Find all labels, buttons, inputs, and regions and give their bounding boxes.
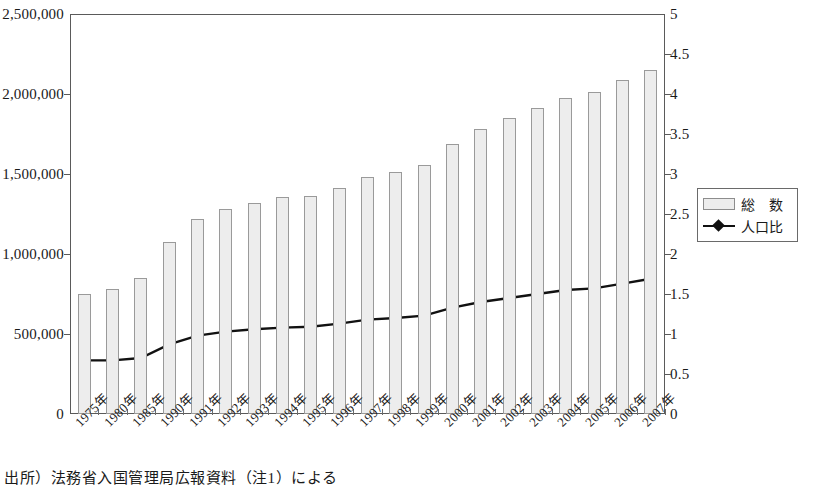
right-axis-tick-label: 1.5 [670,286,689,303]
bar [559,98,572,414]
right-axis-tick-label: 0.5 [670,366,689,383]
plot-area [70,14,665,414]
chart-page: 0500,0001,000,0001,500,0002,000,0002,500… [0,0,814,489]
right-axis-tick-mark [665,134,671,135]
right-axis-tick-mark [665,214,671,215]
left-axis-tick-mark [64,254,70,255]
chart-legend: 総 数 人口比 [697,188,798,242]
left-axis-tick-label: 1,500,000 [2,166,64,183]
bar [78,294,91,414]
bar [531,108,544,414]
bar [361,177,374,414]
right-axis-tick-mark [665,54,671,55]
right-axis-tick-label: 2.5 [670,206,689,223]
legend-item-total: 総 数 [703,193,792,215]
right-axis-tick-mark [665,294,671,295]
right-axis-tick-mark [665,254,671,255]
bar [588,92,601,414]
right-axis-tick-mark [665,174,671,175]
bar [191,219,204,414]
right-axis-tick-mark [665,94,671,95]
bar-swatch-icon [703,198,735,210]
bar [219,209,232,414]
legend-label-total: 総 数 [741,194,783,214]
bar [503,118,516,414]
bar [446,144,459,414]
left-axis-tick-label: 2,500,000 [2,6,64,23]
x-axis-labels: 1975年1980年1985年1990年1991年1992年1993年1994年… [70,414,665,470]
left-axis-labels: 0500,0001,000,0001,500,0002,000,0002,500… [0,0,64,489]
left-axis-tick-label: 1,000,000 [2,246,64,263]
right-axis-tick-mark [665,374,671,375]
left-axis-tick-label: 2,000,000 [2,86,64,103]
right-axis-tick-label: 3 [670,166,678,183]
line-diamond-swatch-icon [703,220,735,232]
left-axis-tick-label: 500,000 [14,326,64,343]
right-axis-tick-label: 4.5 [670,46,689,63]
left-axis-tick-label: 0 [56,406,64,423]
bar [163,242,176,414]
right-axis-tick-label: 1 [670,326,678,343]
bar [134,278,147,414]
bar [106,289,119,414]
right-axis-labels: 00.511.522.533.544.55 [670,0,710,489]
right-axis-tick-mark [665,334,671,335]
bar [418,165,431,414]
bar [616,80,629,414]
bar [389,172,402,414]
bar [474,129,487,414]
right-axis-tick-label: 3.5 [670,126,689,143]
left-axis-tick-mark [64,174,70,175]
right-axis-tick-label: 4 [670,86,678,103]
right-axis-tick-label: 2 [670,246,678,263]
legend-item-ratio: 人口比 [703,215,792,237]
bar [248,203,261,414]
bar [333,188,346,414]
left-axis-tick-mark [64,94,70,95]
bar [276,197,289,414]
legend-label-ratio: 人口比 [741,216,783,236]
source-caption: 出所）法務省入国管理局広報資料（注1）による [4,466,338,487]
left-axis-tick-mark [64,334,70,335]
right-axis-tick-label: 5 [670,6,678,23]
bar [644,70,657,414]
bar [304,196,317,414]
